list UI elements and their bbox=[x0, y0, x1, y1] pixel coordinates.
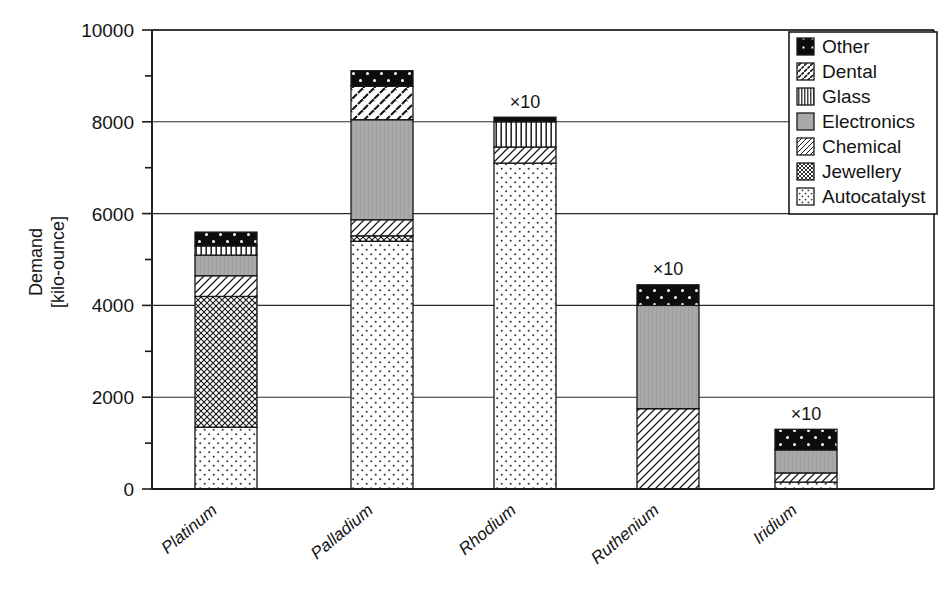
ytick-label-0: 0 bbox=[123, 479, 134, 500]
legend-label-electronics: Electronics bbox=[822, 111, 915, 132]
ytick-label-4000: 4000 bbox=[92, 295, 134, 316]
bar-segment-iridium-autocatalyst bbox=[775, 482, 837, 489]
legend-swatch-glass bbox=[797, 88, 814, 105]
legend-swatch-electronics bbox=[797, 113, 814, 130]
bar-segment-palladium-other bbox=[351, 71, 413, 87]
bar-segment-platinum-electronics bbox=[195, 255, 257, 276]
bar-segment-platinum-autocatalyst bbox=[195, 427, 257, 489]
legend-swatch-chemical bbox=[797, 138, 814, 155]
bar-segment-iridium-electronics bbox=[775, 450, 837, 473]
bar-segment-platinum-glass bbox=[195, 246, 257, 255]
x-axis-tick-labels: Platinum Palladium Rhodium Ruthenium Iri… bbox=[158, 501, 801, 568]
multiplier-label-ruthenium: ×10 bbox=[653, 259, 684, 279]
bar-segment-iridium-chemical bbox=[775, 473, 837, 482]
ytick-label-10000: 10000 bbox=[81, 20, 134, 41]
legend-item-glass[interactable]: Glass bbox=[797, 86, 871, 107]
bar-segment-rhodium-chemical bbox=[494, 147, 556, 163]
legend-item-other[interactable]: Other bbox=[797, 36, 870, 57]
chart-figure: 10000 8000 6000 4000 2000 0 Demand [kilo… bbox=[0, 0, 952, 590]
y-axis-title-line1: Demand bbox=[26, 228, 46, 296]
stacked-bar-chart: 10000 8000 6000 4000 2000 0 Demand [kilo… bbox=[0, 0, 952, 590]
xtick-label-ruthenium: Ruthenium bbox=[587, 501, 662, 568]
bar-segment-iridium-other bbox=[775, 429, 837, 450]
bar-segment-platinum-chemical bbox=[195, 276, 257, 297]
ytick-label-6000: 6000 bbox=[92, 204, 134, 225]
bar-segment-palladium-electronics bbox=[351, 120, 413, 220]
multiplier-label-rhodium: ×10 bbox=[510, 92, 541, 112]
bar-segment-rhodium-glass bbox=[494, 122, 556, 147]
bar-segment-ruthenium-electronics bbox=[637, 305, 699, 408]
legend-swatch-other bbox=[797, 38, 814, 55]
bar-segment-ruthenium-chemical bbox=[637, 409, 699, 489]
bar-segment-palladium-jewellery bbox=[351, 236, 413, 242]
ytick-label-2000: 2000 bbox=[92, 387, 134, 408]
legend-item-dental[interactable]: Dental bbox=[797, 61, 877, 82]
xtick-label-iridium: Iridium bbox=[749, 501, 800, 548]
bar-group-ruthenium bbox=[637, 285, 699, 489]
xtick-label-palladium: Palladium bbox=[307, 501, 376, 564]
bar-segment-palladium-chemical bbox=[351, 220, 413, 236]
bar-segment-platinum-other bbox=[195, 232, 257, 246]
xtick-label-platinum: Platinum bbox=[158, 501, 221, 558]
y-axis-tick-labels: 10000 8000 6000 4000 2000 0 bbox=[81, 20, 134, 500]
bar-group-platinum bbox=[195, 232, 257, 489]
legend-swatch-jewellery bbox=[797, 163, 814, 180]
legend-label-glass: Glass bbox=[822, 86, 871, 107]
legend-swatch-autocatalyst bbox=[797, 188, 814, 205]
bar-segment-ruthenium-other bbox=[637, 285, 699, 306]
legend-label-autocatalyst: Autocatalyst bbox=[822, 186, 926, 207]
bar-segment-platinum-jewellery bbox=[195, 296, 257, 427]
bar-segment-rhodium-other bbox=[494, 117, 556, 122]
y-axis-title: Demand [kilo-ounce] bbox=[26, 216, 68, 308]
legend-label-jewellery: Jewellery bbox=[822, 161, 902, 182]
bar-segment-palladium-autocatalyst bbox=[351, 241, 413, 489]
legend-swatch-dental bbox=[797, 63, 814, 80]
legend: Other Dental Glass Electronics Chemical … bbox=[789, 32, 937, 214]
legend-label-other: Other bbox=[822, 36, 870, 57]
bar-group-rhodium bbox=[494, 117, 556, 489]
y-axis-title-line2: [kilo-ounce] bbox=[48, 216, 68, 308]
y-axis-minor-ticks bbox=[145, 76, 152, 443]
xtick-label-rhodium: Rhodium bbox=[455, 501, 519, 559]
legend-item-jewellery[interactable]: Jewellery bbox=[797, 161, 902, 182]
multiplier-label-iridium: ×10 bbox=[791, 404, 822, 424]
legend-label-dental: Dental bbox=[822, 61, 877, 82]
ytick-label-8000: 8000 bbox=[92, 112, 134, 133]
bar-segment-rhodium-autocatalyst bbox=[494, 163, 556, 489]
bar-group-palladium bbox=[351, 71, 413, 489]
bar-group-iridium bbox=[775, 429, 837, 489]
legend-label-chemical: Chemical bbox=[822, 136, 901, 157]
legend-item-chemical[interactable]: Chemical bbox=[797, 136, 901, 157]
bar-segment-palladium-dental bbox=[351, 86, 413, 120]
